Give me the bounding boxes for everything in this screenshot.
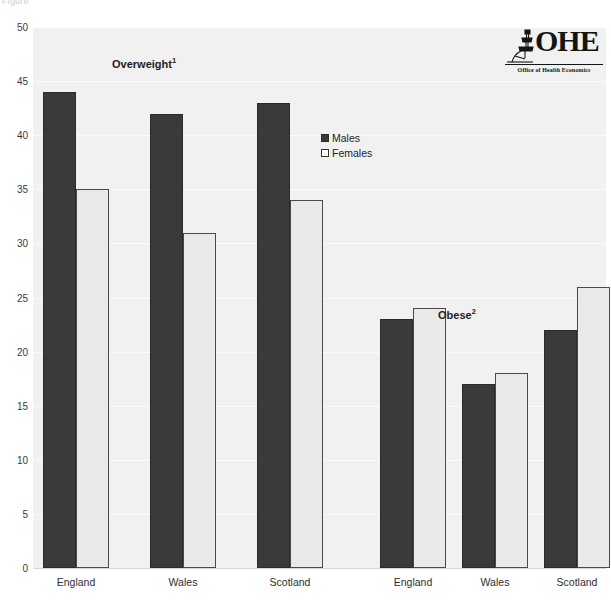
- y-axis-tick-label: 35: [0, 184, 28, 195]
- overweight-annotation-superscript: 1: [172, 56, 176, 65]
- ohe-wordmark: OHE: [535, 26, 599, 56]
- x-axis-label-1: Wales: [169, 576, 198, 588]
- bar-obese-england-males: [380, 319, 413, 568]
- y-axis-tick-label: 25: [0, 292, 28, 303]
- bar-overweight-scotland-females: [290, 200, 323, 568]
- legend-item-females: Females: [321, 145, 372, 160]
- x-axis-label-3: England: [394, 576, 433, 588]
- y-axis-tick-label: 10: [0, 454, 28, 465]
- y-axis-tick-label: 5: [0, 508, 28, 519]
- bar-overweight-wales-females: [183, 233, 216, 568]
- bar-chart: Figure 05101520253035404550 EnglandWales…: [0, 0, 611, 602]
- obese-annotation-superscript: 2: [472, 307, 476, 316]
- overweight-annotation: Overweight1: [112, 56, 176, 70]
- y-axis-tick-label: 50: [0, 22, 28, 33]
- ohe-tagline: Office of Health Economics: [505, 67, 603, 73]
- bar-overweight-england-females: [76, 189, 109, 568]
- legend-swatch-females-icon: [321, 149, 329, 157]
- gridline: [33, 189, 606, 190]
- y-axis-tick-label: 0: [0, 563, 28, 574]
- obese-annotation: Obese2: [438, 307, 476, 321]
- y-axis-tick-label: 40: [0, 130, 28, 141]
- ohe-logo: OHE Office of Health Economics: [505, 28, 603, 76]
- ohe-logo-rule: [505, 64, 603, 65]
- bar-obese-scotland-males: [544, 330, 577, 568]
- y-axis-tick-label: 15: [0, 400, 28, 411]
- obese-annotation-text: Obese: [438, 309, 472, 321]
- y-axis-tick-label: 30: [0, 238, 28, 249]
- legend: Males Females: [321, 130, 372, 160]
- x-axis-label-5: Scotland: [557, 576, 598, 588]
- x-axis-label-4: Wales: [481, 576, 510, 588]
- gridline: [33, 135, 606, 136]
- overweight-annotation-text: Overweight: [112, 58, 172, 70]
- gridline: [33, 81, 606, 82]
- legend-label-females: Females: [332, 147, 372, 159]
- bar-overweight-england-males: [43, 92, 76, 568]
- y-axis-tick-label: 45: [0, 76, 28, 87]
- top-caption: Figure: [2, 0, 29, 6]
- legend-item-males: Males: [321, 130, 372, 145]
- x-axis-label-2: Scotland: [270, 576, 311, 588]
- bar-overweight-scotland-males: [257, 103, 290, 568]
- y-axis-tick-label: 20: [0, 346, 28, 357]
- bar-obese-wales-females: [495, 373, 528, 568]
- bar-obese-england-females: [413, 308, 446, 568]
- bar-obese-wales-males: [462, 384, 495, 568]
- x-axis-line: [33, 568, 606, 569]
- legend-label-males: Males: [332, 132, 360, 144]
- bar-overweight-wales-males: [150, 114, 183, 568]
- bar-obese-scotland-females: [577, 287, 610, 568]
- ohe-microscope-mark-icon: [505, 28, 539, 64]
- legend-swatch-males-icon: [321, 134, 329, 142]
- x-axis-label-0: England: [57, 576, 96, 588]
